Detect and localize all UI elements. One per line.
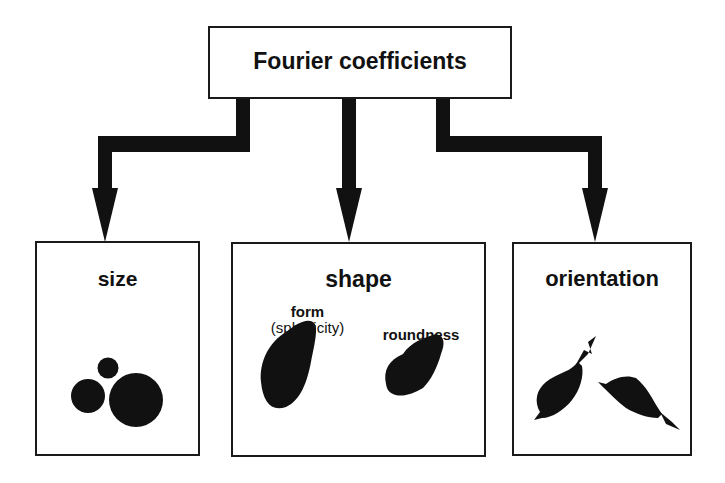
node-size: size [35,241,200,456]
arrow-head-orientation [582,188,608,242]
arrow-head-size [92,188,118,242]
arrow-head-shape [336,188,362,242]
angular-particle-icon [385,334,443,396]
three-circles-icon [35,241,200,456]
node-orientation: orientation [512,242,692,456]
node-shape: shape form (sphericity) roundness [231,242,486,457]
oriented-particles-with-arrows-icon [512,242,692,456]
root-label: Fourier coefficients [210,48,510,75]
elongated-particle-icon [261,321,316,409]
root-node: Fourier coefficients [208,26,512,99]
